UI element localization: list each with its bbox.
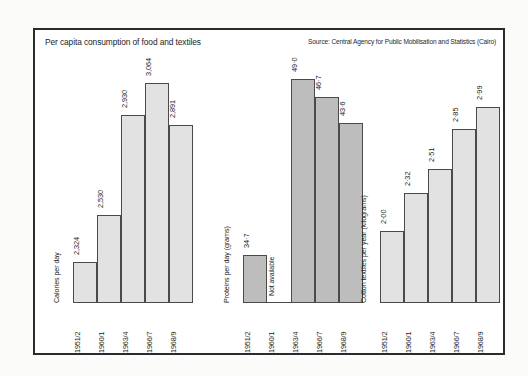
bar-value-label: 49·0 bbox=[290, 58, 299, 72]
category-tick: 1960/1 bbox=[97, 305, 121, 355]
category-axis-3: 1951/21960/11963/41966/71968/9 bbox=[380, 305, 500, 355]
chart-group-3: Cotton textiles per year (kilograms)2·00… bbox=[380, 52, 500, 355]
bar bbox=[428, 169, 452, 303]
category-label: 1951/2 bbox=[243, 332, 252, 353]
bar-value-label: 34·7 bbox=[242, 234, 251, 248]
bar bbox=[404, 193, 428, 303]
bar bbox=[169, 125, 193, 303]
category-tick: 1968/9 bbox=[476, 305, 500, 355]
category-tick: 1960/1 bbox=[267, 305, 291, 355]
bar-value-label: 2,891 bbox=[168, 100, 177, 118]
bar-value-label: 2,530 bbox=[96, 190, 105, 208]
category-label: 1966/7 bbox=[315, 332, 324, 353]
bar-item[interactable]: Not available bbox=[267, 52, 291, 303]
category-tick: 1963/4 bbox=[121, 305, 145, 355]
figure-title: Per capita consumption of food and texti… bbox=[45, 37, 201, 47]
category-axis-2: 1951/21960/11963/41966/71968/9 bbox=[243, 305, 363, 355]
category-tick: 1966/7 bbox=[315, 305, 339, 355]
bar-item[interactable]: 2,530 bbox=[97, 52, 121, 303]
bar-series-3: 2·002·322·512·852·99 bbox=[380, 52, 500, 303]
bar bbox=[380, 231, 404, 303]
category-tick: 1963/4 bbox=[428, 305, 452, 355]
category-label: 1963/4 bbox=[291, 332, 300, 353]
bar-item[interactable]: 2·51 bbox=[428, 52, 452, 303]
category-axis-1: 1951/21960/11963/41966/71968/9 bbox=[73, 305, 193, 355]
bar bbox=[121, 115, 145, 303]
category-label: 1951/2 bbox=[73, 332, 82, 353]
category-label: 1960/1 bbox=[267, 332, 276, 353]
bar-item[interactable]: 2,324 bbox=[73, 52, 97, 303]
bar-item[interactable]: 2,930 bbox=[121, 52, 145, 303]
figure-frame: Per capita consumption of food and texti… bbox=[33, 28, 505, 355]
bar-value-label: 2,324 bbox=[72, 237, 81, 255]
bar-value-label: 2·85 bbox=[451, 108, 460, 122]
bar-value-label: 2·51 bbox=[427, 148, 436, 162]
bar-value-label: 2·00 bbox=[379, 210, 388, 224]
bar-item[interactable]: 2·85 bbox=[452, 52, 476, 303]
bar-value-label: 46·7 bbox=[314, 76, 323, 90]
bar bbox=[97, 215, 121, 303]
category-tick: 1966/7 bbox=[145, 305, 169, 355]
category-label: 1963/4 bbox=[121, 332, 130, 353]
bar-item[interactable]: 2,891 bbox=[169, 52, 193, 303]
chart-plot-area: Calories per day2,3242,5302,9303,0642,89… bbox=[35, 52, 503, 355]
category-tick: 1951/2 bbox=[380, 305, 404, 355]
bar-value-label: Not available bbox=[268, 257, 275, 296]
bar-value-label: 2,930 bbox=[120, 90, 129, 108]
bar bbox=[73, 262, 97, 303]
bar-series-1: 2,3242,5302,9303,0642,891 bbox=[73, 52, 193, 303]
chart-group-2: Proteins per day (grams)34·7Not availabl… bbox=[243, 52, 363, 355]
category-label: 1968/9 bbox=[339, 332, 348, 353]
bar bbox=[291, 79, 315, 303]
bar-item[interactable]: 3,064 bbox=[145, 52, 169, 303]
axis-label-1: Calories per day bbox=[52, 252, 61, 303]
bar-item[interactable]: 2·32 bbox=[404, 52, 428, 303]
baseline-axis bbox=[73, 302, 193, 303]
baseline-axis bbox=[243, 302, 363, 303]
category-tick: 1966/7 bbox=[452, 305, 476, 355]
category-label: 1963/4 bbox=[428, 332, 437, 353]
category-tick: 1968/9 bbox=[169, 305, 193, 355]
category-tick: 1968/9 bbox=[339, 305, 363, 355]
bar-item[interactable]: 2·99 bbox=[476, 52, 500, 303]
bar-item[interactable]: 49·0 bbox=[291, 52, 315, 303]
category-label: 1960/1 bbox=[404, 332, 413, 353]
bar-value-label: 2·99 bbox=[475, 86, 484, 100]
axis-label-3: Cotton textiles per year (kilograms) bbox=[359, 195, 368, 303]
bar bbox=[145, 83, 169, 303]
bar bbox=[243, 255, 267, 303]
bar bbox=[315, 97, 339, 303]
baseline-axis bbox=[380, 302, 500, 303]
bar-item[interactable]: 2·00 bbox=[380, 52, 404, 303]
axis-label-2: Proteins per day (grams) bbox=[222, 226, 231, 303]
bar-value-label: 3,064 bbox=[144, 58, 153, 76]
bar-series-2: 34·7Not available49·046·743·6 bbox=[243, 52, 363, 303]
figure-source: Source: Central Agency for Public Mobili… bbox=[308, 38, 496, 45]
bar bbox=[476, 107, 500, 303]
bar-value-label: 2·32 bbox=[403, 172, 412, 186]
chart-group-1: Calories per day2,3242,5302,9303,0642,89… bbox=[73, 52, 193, 355]
bar-value-label: 43·6 bbox=[338, 102, 347, 116]
category-label: 1951/2 bbox=[380, 332, 389, 353]
category-tick: 1951/2 bbox=[73, 305, 97, 355]
category-tick: 1963/4 bbox=[291, 305, 315, 355]
scan-page: Per capita consumption of food and texti… bbox=[0, 0, 528, 376]
bar bbox=[452, 129, 476, 303]
category-label: 1960/1 bbox=[97, 332, 106, 353]
category-label: 1966/7 bbox=[452, 332, 461, 353]
category-label: 1968/9 bbox=[169, 332, 178, 353]
category-label: 1968/9 bbox=[476, 332, 485, 353]
category-tick: 1951/2 bbox=[243, 305, 267, 355]
category-label: 1966/7 bbox=[145, 332, 154, 353]
bar-item[interactable]: 34·7 bbox=[243, 52, 267, 303]
bar-item[interactable]: 46·7 bbox=[315, 52, 339, 303]
category-tick: 1960/1 bbox=[404, 305, 428, 355]
